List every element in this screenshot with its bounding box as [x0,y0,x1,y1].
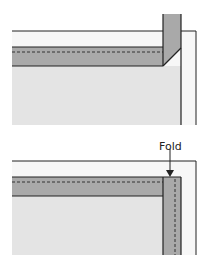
quilt-fabric [12,196,163,255]
binding-diagram-top [0,0,207,133]
binding-strip-folded-down [163,177,181,255]
quilt-fabric [12,66,181,125]
binding-strip-horizontal [12,177,163,196]
fold-label: Fold [159,140,182,153]
binding-strip-horizontal [12,47,181,66]
